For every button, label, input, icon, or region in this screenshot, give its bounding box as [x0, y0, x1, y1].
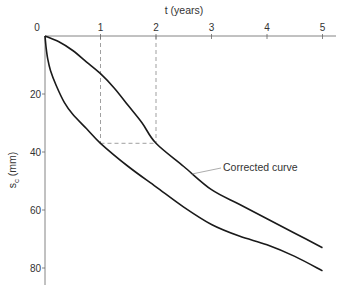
annotation-leader [192, 168, 221, 174]
settlement-time-chart: 01234520406080 t (years) sc (mm) Correct… [0, 0, 353, 296]
y-tick-label: 60 [30, 205, 42, 216]
labels: t (years) sc (mm) Corrected curve [6, 4, 298, 188]
corrected-curve-label: Corrected curve [223, 161, 298, 173]
y-tick-label: 20 [30, 89, 42, 100]
axes: 01234520406080 [30, 22, 336, 285]
y-tick-label: 80 [30, 263, 42, 274]
y-tick-label: 40 [30, 147, 42, 158]
corrected-curve-line [45, 36, 323, 248]
x-tick-label: 3 [209, 22, 215, 33]
x-tick-label: 1 [98, 22, 104, 33]
x-tick-label: 2 [153, 22, 159, 33]
x-tick-label: 5 [320, 22, 326, 33]
x-tick-label: 4 [264, 22, 270, 33]
construction-lines [101, 36, 157, 143]
curves [45, 36, 323, 271]
x-tick-label: 0 [34, 22, 40, 33]
x-axis-title: t (years) [165, 4, 204, 16]
instantaneous-curve-line [45, 36, 323, 271]
y-axis-title: sc (mm) [6, 152, 21, 189]
